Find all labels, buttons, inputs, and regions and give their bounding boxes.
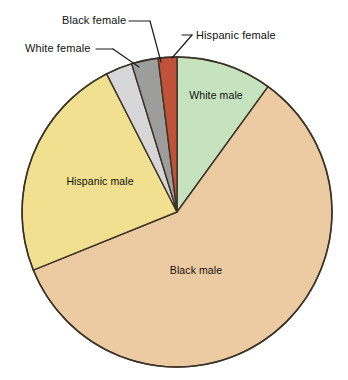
pie-slices xyxy=(22,57,332,367)
pie-slice-label-black-male: Black male xyxy=(170,264,222,276)
leader-line-black-female xyxy=(150,21,161,62)
pie-callout-label-black-female: Black female xyxy=(62,14,126,26)
leader-line-white-female xyxy=(113,49,139,67)
pie-chart-canvas xyxy=(0,0,348,380)
leader-line-hispanic-female xyxy=(172,35,192,58)
pie-slice-label-hispanic-male: Hispanic male xyxy=(66,175,133,187)
pie-callout-label-hispanic-female: Hispanic female xyxy=(196,29,276,41)
pie-callout-label-white-female: White female xyxy=(25,42,90,54)
pie-chart-figure: Black female White female Hispanic femal… xyxy=(0,0,348,380)
pie-slice-label-white-male: White male xyxy=(189,89,243,101)
